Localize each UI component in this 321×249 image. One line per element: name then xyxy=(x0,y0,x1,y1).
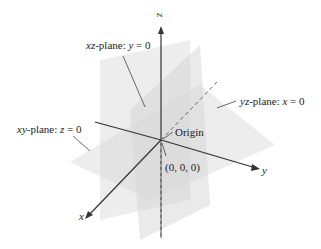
coordinate-planes-diagram: z y x xz-plane: y = 0 yz-plane: x = 0 xy… xyxy=(0,0,321,249)
origin-coords-label: (0, 0, 0) xyxy=(165,161,200,174)
xy-plane-label: xy-plane: z = 0 xyxy=(16,123,82,135)
y-axis-label: y xyxy=(261,164,267,176)
z-axis-arrow-icon xyxy=(158,26,164,34)
xy-leader xyxy=(73,136,90,151)
x-axis-label: x xyxy=(78,210,84,222)
z-axis-label: z xyxy=(155,12,167,18)
yz-plane-label: yz-plane: x = 0 xyxy=(239,95,305,107)
xz-plane-label: xz-plane: y = 0 xyxy=(85,39,151,51)
diagram-canvas: z y x xz-plane: y = 0 yz-plane: x = 0 xy… xyxy=(0,0,321,249)
y-axis-arrow-icon xyxy=(251,164,260,171)
origin-label: Origin xyxy=(175,126,204,138)
